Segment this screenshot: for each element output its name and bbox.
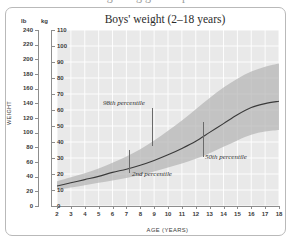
y-tick-label-lb: 20 bbox=[17, 188, 33, 194]
cut-off-heading-text: recognising growth problems bbox=[86, 0, 227, 4]
y-tick-label-lb: 140 bbox=[17, 100, 33, 106]
y-tick-lb bbox=[35, 103, 39, 104]
x-tick bbox=[224, 206, 225, 209]
x-tick-label: 2 bbox=[50, 211, 64, 217]
x-tick bbox=[99, 206, 100, 209]
x-tick bbox=[57, 206, 58, 209]
x-tick-label: 14 bbox=[217, 211, 231, 217]
x-tick-label: 9 bbox=[147, 211, 161, 217]
y-tick-kg bbox=[51, 190, 55, 191]
y-tick-lb bbox=[35, 177, 39, 178]
y-tick-kg bbox=[51, 158, 55, 159]
x-tick-label: 11 bbox=[175, 211, 189, 217]
y-tick-label-lb: 80 bbox=[17, 144, 33, 150]
annotation-98th-percentile: 98th percentile bbox=[103, 99, 145, 107]
y-tick-label-lb: 100 bbox=[17, 129, 33, 135]
y-tick-kg bbox=[51, 126, 55, 127]
y-tick-lb bbox=[35, 30, 39, 31]
x-axis-title: AGE (YEARS) bbox=[55, 227, 280, 233]
annotation-50th-percentile: 50th percentile bbox=[205, 153, 247, 161]
y-tick-kg bbox=[51, 94, 55, 95]
y-tick-lb bbox=[35, 74, 39, 75]
leader-line-98th bbox=[152, 108, 153, 146]
y-tick-label-lb: 220 bbox=[17, 41, 33, 47]
x-tick bbox=[265, 206, 266, 209]
y-tick-label-kg: 110 bbox=[57, 27, 73, 33]
y-tick-kg bbox=[51, 30, 55, 31]
y-axis-kg-rail bbox=[51, 30, 52, 206]
chart-title: Boys' weight (2–18 years) bbox=[70, 13, 260, 25]
y-tick-label-kg: 30 bbox=[57, 155, 73, 161]
y-tick-lb bbox=[35, 162, 39, 163]
x-tick bbox=[279, 206, 280, 209]
annotation-2nd-percentile: 2nd percentile bbox=[132, 170, 172, 178]
y-tick-label-lb: 0 bbox=[17, 203, 33, 209]
y-tick-label-lb: 40 bbox=[17, 173, 33, 179]
x-tick bbox=[126, 206, 127, 209]
leader-line-2nd bbox=[129, 150, 130, 173]
x-tick-label: 15 bbox=[230, 211, 244, 217]
x-tick bbox=[196, 206, 197, 209]
y-tick-kg bbox=[51, 46, 55, 47]
y-tick-lb bbox=[35, 89, 39, 90]
y-tick-label-lb: 60 bbox=[17, 159, 33, 165]
x-tick-label: 3 bbox=[64, 211, 78, 217]
y-tick-lb bbox=[35, 45, 39, 46]
y-tick-label-kg: 20 bbox=[57, 171, 73, 177]
unit-label-kg: kg bbox=[41, 18, 48, 24]
y-tick-kg bbox=[51, 110, 55, 111]
y-tick-label-lb: 200 bbox=[17, 56, 33, 62]
x-tick-label: 12 bbox=[189, 211, 203, 217]
x-tick-label: 7 bbox=[119, 211, 133, 217]
y-tick-label-kg: 100 bbox=[57, 43, 73, 49]
y-tick-lb bbox=[35, 191, 39, 192]
x-tick bbox=[85, 206, 86, 209]
growth-chart-page: recognising growth problems Boys' weight… bbox=[0, 0, 292, 244]
x-tick-label: 17 bbox=[258, 211, 272, 217]
cut-off-heading-strip: recognising growth problems bbox=[0, 0, 292, 5]
y-tick-label-kg: 50 bbox=[57, 123, 73, 129]
y-tick-kg bbox=[51, 206, 55, 207]
y-tick-label-lb: 240 bbox=[17, 27, 33, 33]
x-tick bbox=[237, 206, 238, 209]
y-tick-label-kg: 80 bbox=[57, 75, 73, 81]
x-tick bbox=[71, 206, 72, 209]
y-tick-label-kg: 60 bbox=[57, 107, 73, 113]
x-tick-label: 13 bbox=[203, 211, 217, 217]
y-tick-label-kg: 70 bbox=[57, 91, 73, 97]
x-tick bbox=[154, 206, 155, 209]
x-tick bbox=[182, 206, 183, 209]
unit-label-lb: lb bbox=[21, 18, 26, 24]
y-tick-label-lb: 120 bbox=[17, 115, 33, 121]
x-tick-label: 6 bbox=[106, 211, 120, 217]
y-tick-kg bbox=[51, 174, 55, 175]
y-tick-kg bbox=[51, 78, 55, 79]
x-tick-label: 4 bbox=[78, 211, 92, 217]
x-tick bbox=[140, 206, 141, 209]
y-axis-title: WEIGHT bbox=[6, 93, 12, 133]
x-tick-label: 10 bbox=[161, 211, 175, 217]
y-tick-lb bbox=[35, 118, 39, 119]
x-tick bbox=[210, 206, 211, 209]
x-tick-label: 18 bbox=[272, 211, 286, 217]
y-tick-lb bbox=[35, 206, 39, 207]
x-tick bbox=[168, 206, 169, 209]
y-tick-kg bbox=[51, 62, 55, 63]
y-tick-kg bbox=[51, 142, 55, 143]
y-tick-lb bbox=[35, 59, 39, 60]
y-tick-lb bbox=[35, 147, 39, 148]
y-tick-label-lb: 180 bbox=[17, 71, 33, 77]
y-tick-label-kg: 40 bbox=[57, 139, 73, 145]
y-tick-lb bbox=[35, 133, 39, 134]
leader-line-50th bbox=[203, 122, 204, 157]
y-tick-label-kg: 10 bbox=[57, 187, 73, 193]
x-tick-label: 8 bbox=[133, 211, 147, 217]
x-tick-label: 5 bbox=[92, 211, 106, 217]
x-tick bbox=[251, 206, 252, 209]
y-tick-label-lb: 160 bbox=[17, 85, 33, 91]
plot-area bbox=[57, 30, 279, 206]
x-tick bbox=[113, 206, 114, 209]
y-tick-label-kg: 90 bbox=[57, 59, 73, 65]
x-tick-label: 16 bbox=[244, 211, 258, 217]
